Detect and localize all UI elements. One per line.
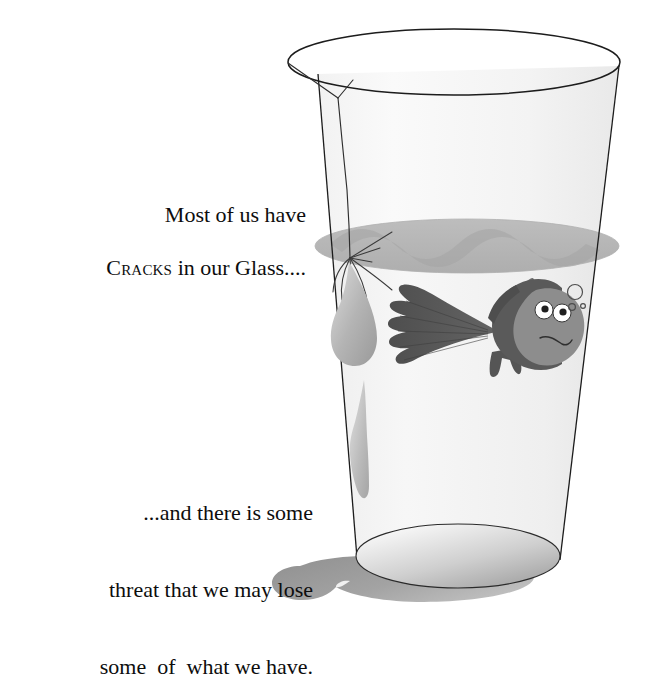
glass-base-ellipse <box>356 524 560 588</box>
caption-top-line1: Most of us have <box>165 202 306 227</box>
fish-eye-left <box>535 301 553 319</box>
caption-bottom: ...and there is some threat that we may … <box>0 458 313 678</box>
caption-bottom-line1: ...and there is some <box>0 502 313 524</box>
caption-cracks-word: Cracks <box>106 255 172 280</box>
caption-bottom-line2: threat that we may lose <box>0 579 313 601</box>
caption-top-line2-rest: in our Glass.... <box>172 255 306 280</box>
caption-top: Most of us have Cracks in our Glass.... <box>0 182 306 323</box>
caption-top-line2: Cracks in our Glass.... <box>0 257 306 279</box>
caption-bottom-line3: some of what we have. <box>0 656 313 678</box>
water-surface <box>315 219 619 273</box>
